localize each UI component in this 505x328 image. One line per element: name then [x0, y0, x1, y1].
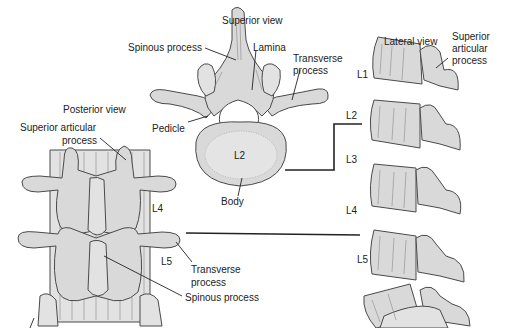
superior-view-title: Superior view [222, 15, 283, 26]
label-sap-lateral-3: process [452, 55, 487, 66]
label-sap-lateral-2: articular [452, 43, 488, 54]
label-spinous-process-superior: Spinous process [128, 42, 202, 53]
label-transverse-posterior-1: Transverse [191, 264, 241, 275]
label-transverse-posterior-2: process [191, 277, 226, 288]
label-pedicle: Pedicle [152, 123, 185, 134]
label-sap-posterior-1: Superior articular [20, 122, 96, 133]
connector-posterior-to-lateral [186, 233, 360, 235]
lateral-view-spine [364, 37, 470, 328]
lateral-view-title: Lateral view [384, 36, 437, 47]
label-l2: L2 [346, 110, 357, 121]
posterior-view-title: Posterior view [63, 104, 126, 115]
label-l4: L4 [346, 205, 357, 216]
label-l3: L3 [346, 154, 357, 165]
label-transverse-process-superior-2: process [293, 65, 328, 76]
posterior-view-spine [18, 146, 180, 326]
label-spinous-process-posterior: Spinous process [185, 292, 259, 303]
label-l2-body: L2 [234, 150, 245, 161]
label-l5: L5 [357, 254, 368, 265]
label-sap-lateral-1: Superior [452, 31, 490, 42]
label-body: Body [221, 196, 244, 207]
label-transverse-process-superior-1: Transverse [293, 53, 343, 64]
label-l1: L1 [357, 69, 368, 80]
label-l5-posterior: L5 [161, 256, 172, 267]
label-lamina: Lamina [253, 42, 286, 53]
label-l4-posterior: L4 [152, 203, 163, 214]
label-sap-posterior-2: process [62, 135, 97, 146]
